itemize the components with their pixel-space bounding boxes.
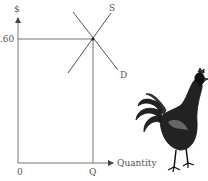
supply-demand-chart: $ .60 0 Q Quantity S D [0,0,208,181]
supply-label: S [109,3,115,13]
rooster-illustration [136,68,208,172]
supply-line [68,13,111,73]
y-axis-label: $ [14,4,20,14]
demand-line [73,12,118,70]
equilibrium-point [92,38,95,41]
origin-tick: 0 [17,167,23,177]
q-tick: Q [89,167,96,177]
price-tick: .60 [0,34,15,44]
demand-label: D [120,70,127,80]
x-axis-label: Quantity [117,158,157,168]
